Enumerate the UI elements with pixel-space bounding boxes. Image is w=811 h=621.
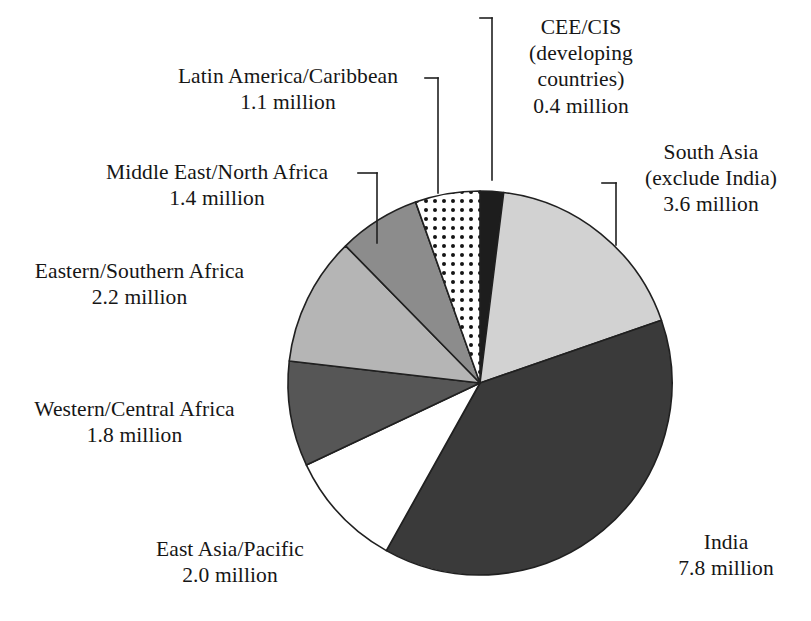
chart-canvas: CEE/CIS (developing countries) 0.4 milli…: [0, 0, 811, 621]
slice-label-middle-east-north-africa-line1: Middle East/North Africa: [82, 159, 352, 185]
slice-label-western-central-africa-line1: Western/Central Africa: [22, 396, 247, 422]
slice-label-eastern-southern-africa-line1: Eastern/Southern Africa: [17, 258, 262, 284]
slice-label-south-asia-value: 3.6 million: [616, 191, 806, 217]
slice-label-eastern-southern-africa: Eastern/Southern Africa 2.2 million: [17, 258, 262, 310]
slice-label-latin-america-caribbean-line1: Latin America/Caribbean: [143, 63, 433, 89]
slice-label-east-asia-pacific: East Asia/Pacific 2.0 million: [130, 536, 330, 588]
slice-label-latin-america-caribbean: Latin America/Caribbean 1.1 million: [143, 63, 433, 115]
slice-label-east-asia-pacific-value: 2.0 million: [130, 562, 330, 588]
slice-label-india-value: 7.8 million: [646, 555, 806, 581]
slice-label-middle-east-north-africa: Middle East/North Africa 1.4 million: [82, 159, 352, 211]
slice-label-cee-cis-line3: countries): [496, 66, 666, 92]
slice-label-cee-cis-line2: (developing: [496, 40, 666, 66]
slice-label-east-asia-pacific-line1: East Asia/Pacific: [130, 536, 330, 562]
slice-label-middle-east-north-africa-value: 1.4 million: [82, 185, 352, 211]
slice-label-south-asia: South Asia (exclude India) 3.6 million: [616, 139, 806, 218]
slice-label-india: India 7.8 million: [646, 529, 806, 581]
slice-label-cee-cis-line1: CEE/CIS: [496, 14, 666, 40]
slice-label-western-central-africa-value: 1.8 million: [22, 422, 247, 448]
slice-label-latin-america-caribbean-value: 1.1 million: [143, 89, 433, 115]
slice-label-eastern-southern-africa-value: 2.2 million: [17, 284, 262, 310]
pie-slices: [288, 191, 672, 575]
slice-label-india-line1: India: [646, 529, 806, 555]
slice-label-western-central-africa: Western/Central Africa 1.8 million: [22, 396, 247, 448]
slice-label-cee-cis-value: 0.4 million: [496, 93, 666, 119]
slice-label-south-asia-line1: South Asia: [616, 139, 806, 165]
slice-label-cee-cis: CEE/CIS (developing countries) 0.4 milli…: [496, 14, 666, 119]
slice-label-south-asia-line2: (exclude India): [616, 165, 806, 191]
